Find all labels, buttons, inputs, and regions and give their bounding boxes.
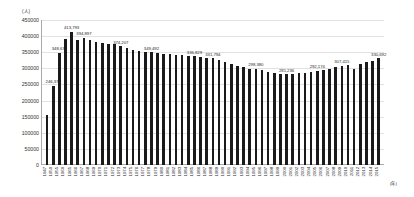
x-tick-label: 1969 [92,167,97,176]
bar [310,72,313,165]
bar [242,67,245,165]
bar [334,67,337,165]
x-tick-label: 2012 [356,167,361,176]
bar [304,73,307,165]
bar [126,48,129,165]
x-tick-label: 1994 [245,167,250,176]
bar [169,54,172,165]
bar [181,55,184,165]
x-tick-label: 2010 [343,167,348,176]
bar [322,70,325,165]
bar [273,73,276,165]
bar [144,52,147,165]
bar [248,69,251,165]
bar [224,62,227,165]
x-tick-label: 2014 [368,167,373,176]
bar [64,39,67,165]
bar [291,74,294,165]
x-tick-label: 1970 [98,167,103,176]
x-tick-label: 1999 [276,167,281,176]
bar [70,32,73,165]
x-axis: 1947195019551960196519661967196819691970… [41,166,384,194]
bar [83,38,86,165]
bar [150,52,153,165]
y-tick-label: 200000 [0,98,39,104]
x-tick-label: 1973 [116,167,121,176]
x-tick-label: 1975 [128,167,133,176]
y-tick-label: 450000 [0,17,39,23]
y-tick-label: 250000 [0,81,39,87]
x-tick-label: 1965 [67,167,72,176]
bar [279,74,282,165]
y-axis-unit-label: (人) [22,8,30,14]
x-tick-label: 1968 [85,167,90,176]
bar [156,53,159,165]
bar [298,73,301,165]
x-tick-label: 1988 [208,167,213,176]
bar [365,62,368,165]
x-tick-label: 1990 [220,167,225,176]
x-tick-label: 1996 [257,167,262,176]
x-tick-label: 2013 [362,167,367,176]
y-tick-label: 150000 [0,114,39,120]
bar [101,43,104,165]
x-tick-label: 2009 [337,167,342,176]
x-tick-label: 1991 [227,167,232,176]
bar [328,69,331,165]
bar [107,44,110,165]
bar-series: 246,373348,675413,793394,897374,207349,4… [41,20,384,165]
x-tick-label: 1989 [214,167,219,176]
x-tick-label: 2001 [288,167,293,176]
bar [113,44,116,165]
x-tick-label: 2002 [294,167,299,176]
y-tick-label: 300000 [0,65,39,71]
x-axis-unit-label: (年) [390,180,397,186]
bar [162,54,165,165]
y-tick-label: 100000 [0,130,39,136]
y-tick-label: 350000 [0,49,39,55]
x-tick-label: 1992 [233,167,238,176]
x-tick-label: 1981 [165,167,170,176]
x-tick-label: 2005 [313,167,318,176]
x-tick-label: 1982 [171,167,176,176]
x-tick-label: 1967 [79,167,84,176]
x-tick-label: 2015 [374,167,379,176]
x-tick-label: 2003 [300,167,305,176]
bar [316,71,319,165]
x-tick-label: 1974 [122,167,127,176]
x-tick-label: 1947 [42,167,47,176]
x-tick-label: 1993 [239,167,244,176]
bar [205,58,208,165]
bar [285,74,288,165]
bar [52,86,55,165]
bar [187,56,190,165]
x-tick-label: 2006 [319,167,324,176]
x-tick-label: 1995 [251,167,256,176]
x-tick-label: 1983 [177,167,182,176]
x-tick-label: 1980 [159,167,164,176]
x-tick-label: 2000 [282,167,287,176]
x-tick-label: 1976 [134,167,139,176]
bar [267,72,270,165]
x-tick-label: 1972 [110,167,115,176]
x-tick-label: 1977 [141,167,146,176]
x-tick-label: 1986 [196,167,201,176]
x-tick-label: 2007 [325,167,330,176]
bar [76,40,79,165]
bar [138,51,141,165]
bar [371,61,374,165]
bar-chart: (人) 050000100000150000200000250000300000… [0,0,414,197]
x-tick-label: 1985 [190,167,195,176]
bar [95,42,98,165]
x-tick-label: 2011 [350,167,355,176]
bar [353,69,356,165]
x-tick-label: 2008 [331,167,336,176]
x-tick-label: 1978 [147,167,152,176]
bar [175,55,178,165]
bar-slot: 330,692 [376,20,382,165]
x-tick-label: 1955 [55,167,60,176]
bar [212,58,215,165]
bar [359,64,362,166]
bar [230,64,233,165]
x-tick-slot: 2015 [376,166,382,194]
